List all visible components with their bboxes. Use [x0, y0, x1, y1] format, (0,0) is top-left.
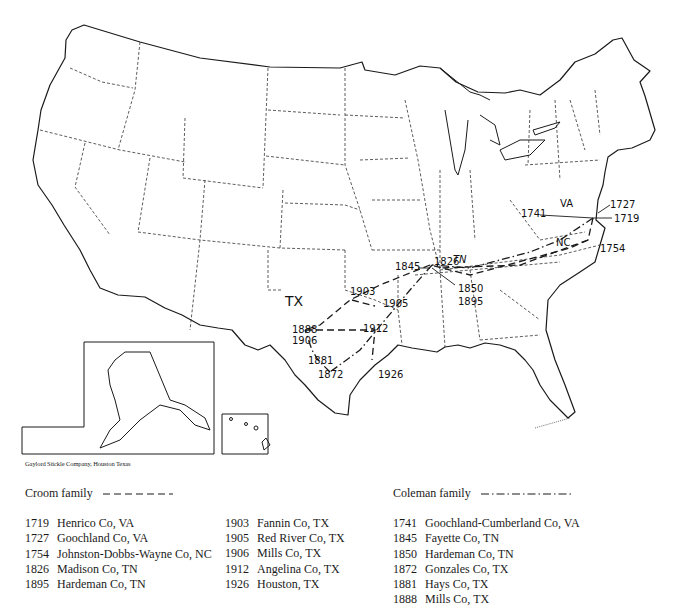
list-item: 1888Mills Co, TX — [393, 592, 580, 607]
svg-text:1727: 1727 — [610, 199, 635, 210]
svg-text:NC: NC — [556, 237, 570, 248]
svg-text:1881: 1881 — [308, 355, 333, 366]
hawaii-inset-frame — [222, 414, 268, 454]
svg-text:1888: 1888 — [292, 324, 317, 335]
list-item: 1881Hays Co, TX — [393, 577, 580, 592]
svg-text:1905: 1905 — [383, 298, 408, 309]
list-item: 1845Fayette Co, TN — [393, 531, 580, 546]
svg-text:1826: 1826 — [434, 256, 459, 267]
dashed-line-icon — [103, 491, 173, 497]
list-item: 1754Johnston-Dobbs-Wayne Co, NC — [25, 547, 212, 562]
svg-text:1926: 1926 — [378, 369, 403, 380]
list-item: 1727Goochland Co, VA — [25, 531, 212, 546]
svg-text:1906: 1906 — [292, 335, 317, 346]
svg-text:1895: 1895 — [458, 296, 483, 307]
list-item: 1719Henrico Co, VA — [25, 516, 212, 531]
alaska-inset-frame — [22, 342, 214, 454]
croom-legend-col2: 1903Fannin Co, TX 1905Red River Co, TX 1… — [225, 516, 345, 592]
year-labels: 1727 1719 1741 1754 1826 1845 1850 1895 … — [292, 199, 639, 380]
list-item: 1850Hardeman Co, TN — [393, 547, 580, 562]
list-item: 1826Madison Co, TN — [25, 562, 212, 577]
list-item: 1926Houston, TX — [225, 577, 345, 592]
svg-text:1719: 1719 — [614, 213, 639, 224]
svg-text:1850: 1850 — [458, 283, 483, 294]
us-outline — [33, 25, 655, 418]
list-item: 1912Angelina Co, TX — [225, 562, 345, 577]
svg-text:VA: VA — [560, 198, 573, 209]
coleman-legend-title: Coleman family — [393, 486, 471, 501]
svg-text:1754: 1754 — [600, 243, 625, 254]
coleman-legend: Coleman family 1741Goochland-Cumberland … — [393, 486, 580, 607]
croom-legend-title: Croom family — [25, 486, 93, 501]
map-credit: Gaylord Stickle Company, Houston Texas — [25, 460, 131, 467]
list-item: 1741Goochland-Cumberland Co, VA — [393, 516, 580, 531]
list-item: 1905Red River Co, TX — [225, 531, 345, 546]
svg-text:TX: TX — [284, 293, 304, 309]
list-item: 1895Hardeman Co, TN — [25, 577, 212, 592]
svg-text:1903: 1903 — [350, 286, 375, 297]
svg-text:1845: 1845 — [395, 261, 420, 272]
svg-text:1872: 1872 — [318, 369, 343, 380]
us-migration-map: VA TN NC TX 1727 1719 1741 1754 1826 184… — [0, 0, 675, 470]
croom-legend: Croom family 1719Henrico Co, VA 1727Gooc… — [25, 486, 212, 592]
dash-dot-line-icon — [481, 491, 571, 497]
list-item: 1903Fannin Co, TX — [225, 516, 345, 531]
list-item: 1906Mills Co, TX — [225, 546, 345, 561]
list-item: 1872Gonzales Co, TX — [393, 562, 580, 577]
svg-text:1912: 1912 — [363, 323, 388, 334]
svg-text:1741: 1741 — [521, 208, 546, 219]
